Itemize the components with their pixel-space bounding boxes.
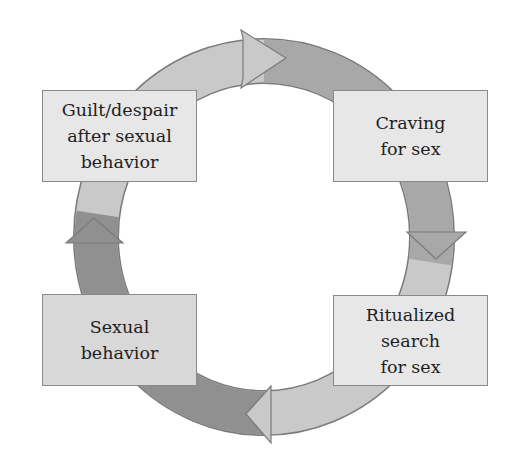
addiction-cycle-diagram: Guilt/despair after sexual behavior Crav… <box>0 0 512 463</box>
node-search-line-2: search <box>381 328 440 354</box>
cycle-ring <box>0 0 512 463</box>
node-search-line-1: Ritualized <box>366 302 455 328</box>
node-search: Ritualized search for sex <box>333 295 488 386</box>
node-craving-line-1: Craving <box>375 110 445 136</box>
node-search-line-3: for sex <box>380 354 440 380</box>
node-craving-line-2: for sex <box>380 136 440 162</box>
node-guilt-line-3: behavior <box>81 149 159 175</box>
node-behavior-line-2: behavior <box>81 340 159 366</box>
node-behavior: Sexual behavior <box>42 294 197 386</box>
node-guilt-line-2: after sexual <box>67 123 172 149</box>
node-behavior-line-1: Sexual <box>90 314 150 340</box>
node-guilt-line-1: Guilt/despair <box>62 97 178 123</box>
node-guilt: Guilt/despair after sexual behavior <box>42 90 197 182</box>
node-craving: Craving for sex <box>333 90 488 182</box>
